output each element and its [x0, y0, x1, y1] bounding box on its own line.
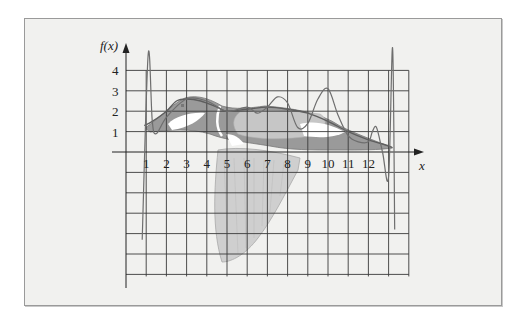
x-tick-label: 8	[284, 156, 291, 171]
duck-illustration	[145, 97, 392, 262]
x-axis-label: x	[418, 158, 425, 173]
x-tick-label: 2	[163, 156, 170, 171]
x-tick-label: 3	[183, 156, 190, 171]
x-tick-label: 1	[143, 156, 150, 171]
x-tick-label: 7	[264, 156, 271, 171]
x-tick-label: 4	[204, 156, 211, 171]
y-tick-label: 3	[112, 84, 119, 99]
y-tick-label: 1	[112, 125, 119, 140]
x-tick-label: 9	[305, 156, 312, 171]
interpolation-plot: f(x) x 1234 123456789101112	[0, 0, 525, 324]
x-tick-label: 10	[322, 156, 335, 171]
x-axis-arrow-icon	[414, 149, 424, 156]
x-tick-label: 11	[342, 156, 355, 171]
grid	[126, 70, 409, 276]
y-axis-arrow-icon	[123, 43, 130, 53]
y-axis-label: f(x)	[100, 38, 118, 53]
x-tick-label: 5	[224, 156, 231, 171]
y-tick-label: 2	[112, 104, 119, 119]
duck-eye	[181, 104, 184, 107]
y-tick-label: 4	[112, 63, 119, 78]
x-tick-label: 6	[244, 156, 251, 171]
x-tick-label: 12	[362, 156, 375, 171]
y-tick-labels: 1234	[112, 63, 119, 139]
